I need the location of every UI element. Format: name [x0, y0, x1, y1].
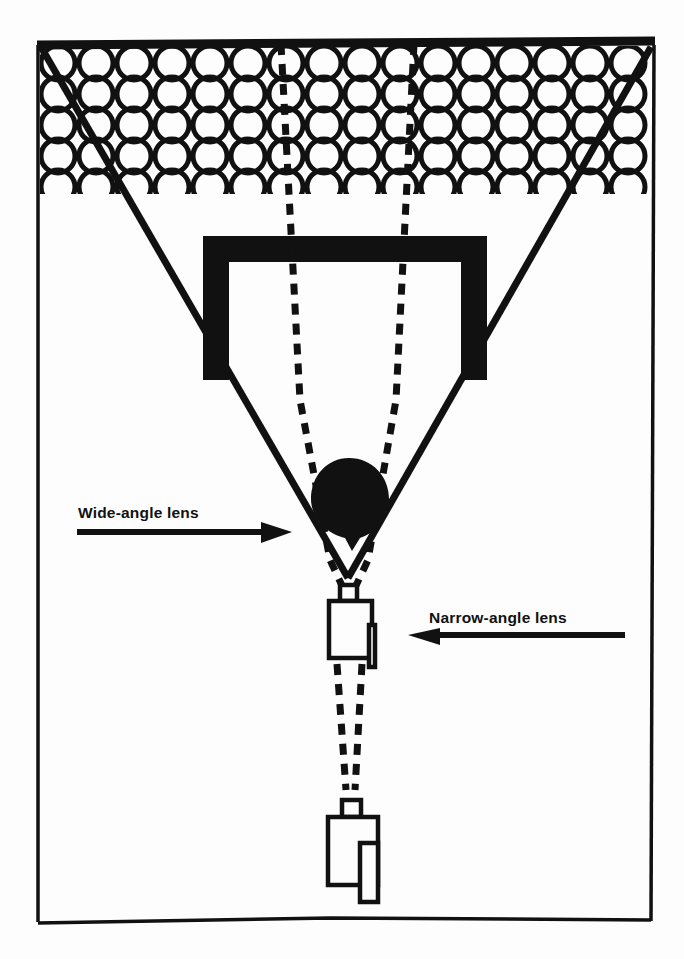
lens-angle-diagram: Wide-angle lens Narrow-angle lens	[0, 0, 684, 959]
wide-angle-lens-label: Wide-angle lens	[78, 504, 199, 521]
figure-canvas: Wide-angle lens Narrow-angle lens	[0, 0, 684, 959]
narrow-angle-lens-label: Narrow-angle lens	[429, 609, 567, 626]
narrow-angle-camera	[328, 800, 378, 902]
